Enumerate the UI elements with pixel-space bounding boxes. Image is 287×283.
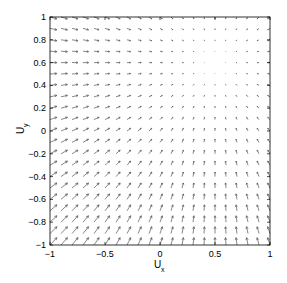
x-tick-label: −0.5 — [96, 249, 114, 259]
svg-text:x: x — [161, 266, 165, 273]
y-tick-label: −0.4 — [28, 172, 46, 182]
y-tick-label: −0.8 — [28, 217, 46, 227]
x-tick-label: 0.5 — [209, 249, 222, 259]
y-tick-label: 0.8 — [33, 35, 46, 45]
y-tick-label: 0.4 — [33, 80, 46, 90]
y-tick-label: 1 — [41, 12, 46, 22]
y-tick-label: 0 — [41, 126, 46, 136]
y-tick-label: −0.2 — [28, 149, 46, 159]
y-tick-label: −0.6 — [28, 194, 46, 204]
svg-text:y: y — [22, 123, 30, 127]
y-tick-label: 0.6 — [33, 58, 46, 68]
quiver-plot: −1−0.8−0.6−0.4−0.200.20.40.60.81 −1−0.50… — [0, 0, 287, 283]
y-axis-label: U y — [15, 123, 30, 134]
x-tick-label: 1 — [267, 249, 272, 259]
x-axis-label: U x — [154, 259, 165, 273]
y-tick-label: 0.2 — [33, 103, 46, 113]
x-tick-label: 0 — [157, 249, 162, 259]
vector-field-arrows — [50, 17, 270, 245]
x-tick-label: −1 — [45, 249, 55, 259]
x-axis-ticks: −1−0.500.51 — [45, 17, 273, 259]
